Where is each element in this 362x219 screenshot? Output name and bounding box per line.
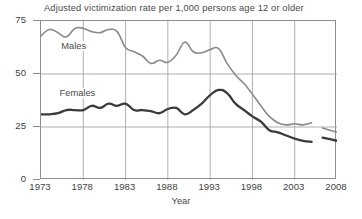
series-label-males: Males — [60, 41, 87, 51]
x-axis-tick-label: 1998 — [231, 181, 271, 192]
x-axis-tick-label: 1988 — [147, 181, 187, 192]
y-axis-tick-mark — [33, 73, 40, 74]
series-tail-females — [323, 138, 337, 141]
y-axis-tick-label: 50 — [0, 67, 26, 78]
y-axis-tick-label: 75 — [0, 14, 26, 25]
series-tail-males — [323, 128, 337, 132]
x-axis-tick-label: 1993 — [189, 181, 229, 192]
x-axis-tick-label: 1973 — [20, 181, 60, 192]
chart-title: Adjusted victimization rate per 1,000 pe… — [44, 3, 304, 13]
x-axis-tick-label: 1978 — [62, 181, 102, 192]
x-axis-tick-label: 1983 — [105, 181, 145, 192]
x-axis-title: Year — [0, 196, 362, 206]
y-axis-tick-mark — [33, 179, 40, 180]
series-label-females: Females — [59, 88, 97, 98]
y-axis-tick-label: 25 — [0, 120, 26, 131]
y-axis-tick-mark — [33, 20, 40, 21]
x-axis-tick-label: 2008 — [316, 181, 356, 192]
x-axis-tick-label: 2003 — [274, 181, 314, 192]
chart-container: Adjusted victimization rate per 1,000 pe… — [0, 0, 362, 219]
y-axis-tick-mark — [33, 126, 40, 127]
